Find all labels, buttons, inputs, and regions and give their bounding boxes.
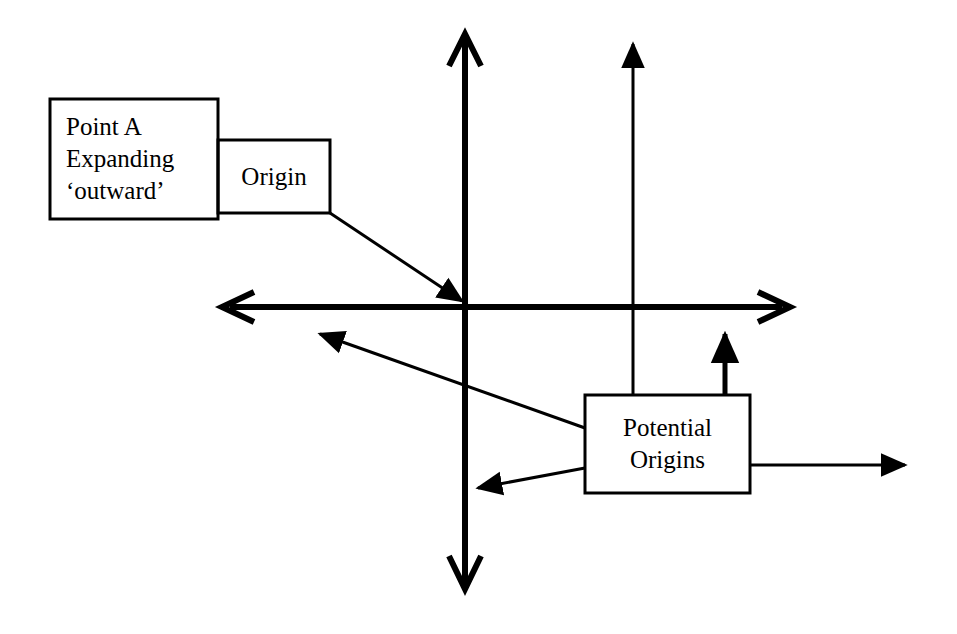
horizontal-axis — [222, 292, 790, 322]
potential-origin-upper-left-ray — [320, 334, 585, 428]
origin-box — [218, 140, 330, 213]
diagram-svg — [0, 0, 957, 634]
diagram-canvas: Point A Expanding ‘outward’ Origin Poten… — [0, 0, 957, 634]
potential-origins-box — [585, 395, 750, 493]
point-a-box — [50, 99, 218, 219]
origin-leader-line — [330, 213, 462, 301]
potential-origin-lower-left-ray — [478, 468, 585, 488]
vertical-axis — [449, 34, 481, 589]
